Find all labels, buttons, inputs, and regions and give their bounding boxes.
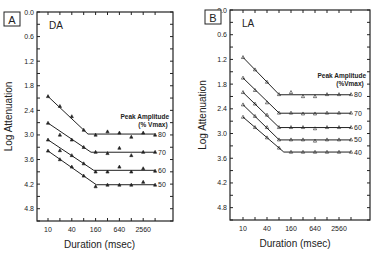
data-point [130, 154, 133, 157]
data-point [241, 76, 244, 79]
series-label: 50 [354, 136, 362, 143]
x-axis-label: Duration (msec) [259, 238, 330, 249]
y-tick-label: 3.0 [24, 131, 34, 138]
data-point [154, 169, 157, 172]
series-label: 70 [158, 149, 166, 156]
data-point [118, 131, 121, 134]
data-point [349, 138, 352, 141]
y-tick-label: 1.8 [217, 81, 227, 88]
series-60: 60 [46, 138, 166, 174]
y-tick-label: 4.2 [217, 179, 227, 186]
y-tick-label: 4.8 [24, 205, 34, 212]
series-label: 50 [158, 181, 166, 188]
y-tick-label: 0.6 [24, 33, 34, 40]
data-point [142, 180, 145, 183]
y-tick-label: 4.2 [24, 181, 34, 188]
data-point [70, 154, 73, 157]
data-point [301, 138, 304, 141]
series-label: 60 [158, 167, 166, 174]
data-point [154, 183, 157, 186]
y-tick-label: 4.8 [217, 204, 227, 211]
series-label: 80 [158, 131, 166, 138]
series-label: 60 [354, 124, 362, 131]
data-point [106, 130, 109, 133]
data-point [289, 91, 292, 94]
data-point [58, 133, 61, 136]
data-point [289, 138, 292, 141]
y-tick-label: 1.2 [217, 56, 227, 63]
data-point [325, 138, 328, 141]
y-tick-label: 1.8 [24, 82, 34, 89]
data-point [118, 165, 121, 168]
x-tick-label: 640 [309, 225, 321, 232]
panel-letter: B [209, 12, 216, 24]
data-point [241, 115, 244, 118]
series-label: 70 [354, 110, 362, 117]
data-point [142, 131, 145, 134]
data-point [118, 146, 121, 149]
x-tick-label: 10 [44, 226, 52, 233]
data-point [130, 135, 133, 138]
figure: 0.00.61.21.82.43.03.64.24.81040160640256… [0, 0, 376, 257]
y-tick-label: 3.6 [217, 155, 227, 162]
x-tick-label: 640 [114, 226, 126, 233]
panel-a: 0.00.61.21.82.43.03.64.24.81040160640256… [3, 9, 173, 251]
series-50: 50 [46, 149, 166, 188]
series-label: 40 [354, 149, 362, 156]
data-point [46, 95, 49, 98]
x-tick-label: 2560 [135, 226, 151, 233]
plot-frame [230, 10, 370, 220]
data-point [58, 104, 61, 107]
y-tick-label: 1.2 [24, 58, 34, 65]
data-point [46, 149, 49, 152]
series-label: 80 [354, 91, 362, 98]
panel-title: DA [49, 20, 63, 31]
legend-title: Peak Amplitude [120, 113, 169, 121]
legend-subtitle: (%Vmax) [336, 80, 363, 88]
data-point [337, 138, 340, 141]
y-tick-label: 3.0 [217, 130, 227, 137]
x-tick-label: 40 [263, 225, 271, 232]
y-tick-label: 0.6 [217, 31, 227, 38]
y-tick-label: 0.0 [24, 9, 34, 16]
legend-title: Peak Amplitude [317, 72, 366, 80]
data-point [46, 138, 49, 141]
legend-subtitle: (% Vmax) [138, 121, 167, 129]
x-axis-label: Duration (msec) [64, 239, 135, 250]
data-point [301, 126, 304, 129]
y-tick-label: 3.6 [24, 156, 34, 163]
data-point [154, 150, 157, 153]
x-tick-label: 40 [68, 226, 76, 233]
y-tick-label: 2.4 [217, 105, 227, 112]
panel-title: LA [242, 18, 255, 29]
data-point [70, 115, 73, 118]
data-point [241, 103, 244, 106]
data-point [106, 183, 109, 186]
data-point [241, 56, 244, 59]
data-point [46, 121, 49, 124]
x-tick-label: 160 [90, 226, 102, 233]
data-point [94, 150, 97, 153]
data-point [82, 162, 85, 165]
x-tick-label: 160 [285, 225, 297, 232]
panel-letter: A [8, 14, 16, 26]
y-axis-label: Log Attenuation [197, 80, 208, 150]
data-point [142, 167, 145, 170]
data-point [289, 126, 292, 129]
y-axis-label: Log Attenuation [3, 82, 14, 152]
data-point [118, 183, 121, 186]
data-point [130, 183, 133, 186]
data-point [58, 149, 61, 152]
x-tick-label: 10 [239, 225, 247, 232]
data-point [265, 101, 268, 104]
x-tick-label: 2560 [331, 225, 347, 232]
data-point [142, 150, 145, 153]
y-tick-label: 2.4 [24, 107, 34, 114]
data-point [70, 165, 73, 168]
data-point [337, 126, 340, 129]
data-point [325, 126, 328, 129]
data-point [241, 91, 244, 94]
panel-b: 0.00.61.21.82.43.03.64.24.81040160640256… [197, 7, 370, 250]
data-point [349, 126, 352, 129]
